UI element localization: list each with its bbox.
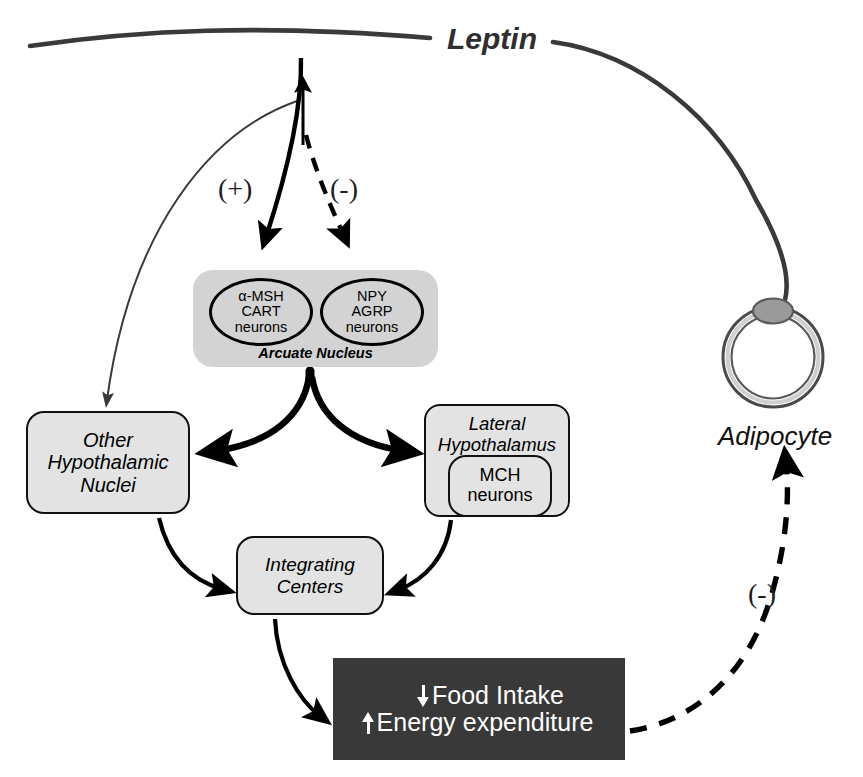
outcome-energy-expenditure-label: Energy expenditure — [377, 709, 594, 736]
sign-label-minus-adipocyte: (-) — [748, 578, 776, 610]
outcome-food-intake-label: Food Intake — [432, 682, 564, 709]
outcome-row-food-intake: Food Intake — [394, 682, 564, 709]
lateral-hypothalamus-label: Lateral Hypothalamus — [438, 414, 556, 455]
leptin-energy-balance-diagram: Leptin (+) (-) (-) α-MSH CART neurons NP… — [0, 0, 863, 777]
outcome-node[interactable]: Food Intake Energy expenditure — [333, 658, 625, 760]
alpha-msh-cart-neurons-node[interactable]: α-MSH CART neurons — [209, 278, 313, 346]
sign-label-minus-arcuate: (-) — [330, 173, 358, 205]
down-arrow-icon — [416, 683, 431, 709]
edge-arcuate-to-lateral-hypothalamus — [312, 377, 404, 451]
npy-agrp-neurons-label: NPY AGRP neurons — [346, 289, 398, 336]
mch-neurons-node[interactable]: MCH neurons — [448, 455, 552, 517]
edge-other-hypothalamic-nuclei-to-integrating-centers — [159, 518, 222, 589]
npy-agrp-neurons-node[interactable]: NPY AGRP neurons — [320, 278, 424, 346]
alpha-msh-cart-neurons-label: α-MSH CART neurons — [235, 289, 287, 336]
arcuate-nucleus-label: Arcuate Nucleus — [193, 345, 438, 361]
integrating-centers-label: Integrating Centers — [265, 554, 355, 597]
adipocyte-label: Adipocyte — [700, 421, 850, 452]
edge-lateral-hypothalamus-to-integrating-centers — [398, 520, 451, 590]
edge-arcuate-to-other-hypothalamic-nuclei — [215, 377, 309, 451]
other-hypothalamic-nuclei-label: Other Hypothalamic Nuclei — [47, 429, 168, 496]
page-title: Leptin — [447, 22, 537, 56]
edge-leptin-to-alpha-msh-cart — [266, 58, 301, 237]
mch-neurons-label: MCH neurons — [467, 466, 532, 506]
leptin-arc-left-segment — [30, 30, 430, 46]
outcome-row-energy-expenditure: Energy expenditure — [361, 709, 598, 736]
leptin-arc-right-segment — [553, 42, 787, 300]
integrating-centers-node[interactable]: Integrating Centers — [236, 536, 384, 615]
edge-integrating-centers-to-outcome — [275, 619, 320, 716]
up-arrow-icon — [361, 710, 376, 736]
other-hypothalamic-nuclei-node[interactable]: Other Hypothalamic Nuclei — [26, 411, 190, 514]
adipocyte-cell-icon — [716, 297, 830, 411]
sign-label-plus-arcuate: (+) — [218, 173, 252, 205]
